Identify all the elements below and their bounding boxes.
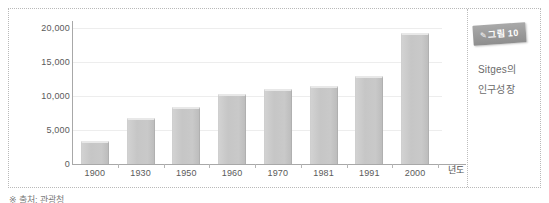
y-tick-label: 5,000 (10, 125, 70, 135)
x-tick-label: 1960 (209, 168, 255, 178)
x-axis: 19001930195019601970198119912000 (72, 168, 438, 182)
x-tick-label: 1950 (164, 168, 210, 178)
x-tick-label: 1970 (255, 168, 301, 178)
bar-slot (72, 28, 118, 164)
y-tick-label: 20,000 (10, 23, 70, 33)
y-axis: 05,00010,00015,00020,000 (8, 8, 70, 188)
bar[interactable] (172, 107, 200, 164)
figure-caption-panel: ✎그림 10 Sitges의 인구성장 (470, 8, 549, 188)
figure-number-label: 그림 10 (488, 28, 519, 40)
caption-line-1: Sitges의 (478, 61, 516, 76)
bar-slot (209, 28, 255, 164)
bar[interactable] (218, 94, 246, 164)
bar-slot (347, 28, 393, 164)
bar[interactable] (401, 33, 429, 164)
bar-slot (255, 28, 301, 164)
x-axis-line (72, 164, 466, 165)
bar[interactable] (355, 76, 383, 164)
y-tick-label: 15,000 (10, 57, 70, 67)
x-tick-label: 1900 (72, 168, 118, 178)
figure-number-badge: ✎그림 10 (472, 22, 526, 46)
y-tick-label: 0 (10, 159, 70, 169)
bar[interactable] (81, 141, 109, 164)
caption-line-2: 인구성장 (478, 81, 515, 96)
x-tick-label: 2000 (392, 168, 438, 178)
pencil-icon: ✎ (480, 31, 488, 40)
x-axis-title: 년도 (448, 163, 464, 176)
bar[interactable] (264, 89, 292, 164)
x-tick-label: 1930 (118, 168, 164, 178)
y-tick-label: 10,000 (10, 91, 70, 101)
plot-area (72, 28, 438, 164)
x-tick-label: 1991 (347, 168, 393, 178)
bar-slot (164, 28, 210, 164)
x-tick-mark (438, 164, 439, 168)
panel-divider (467, 9, 468, 187)
bar[interactable] (127, 118, 155, 164)
bar-slot (118, 28, 164, 164)
bar-slot (392, 28, 438, 164)
bar-slot (301, 28, 347, 164)
bar[interactable] (310, 86, 338, 164)
source-note: ※ 출처: 관광청 (9, 193, 64, 203)
bar-chart: 05,00010,00015,00020,000 190019301950196… (8, 8, 467, 188)
x-tick-label: 1981 (301, 168, 347, 178)
bar-series (72, 28, 438, 164)
